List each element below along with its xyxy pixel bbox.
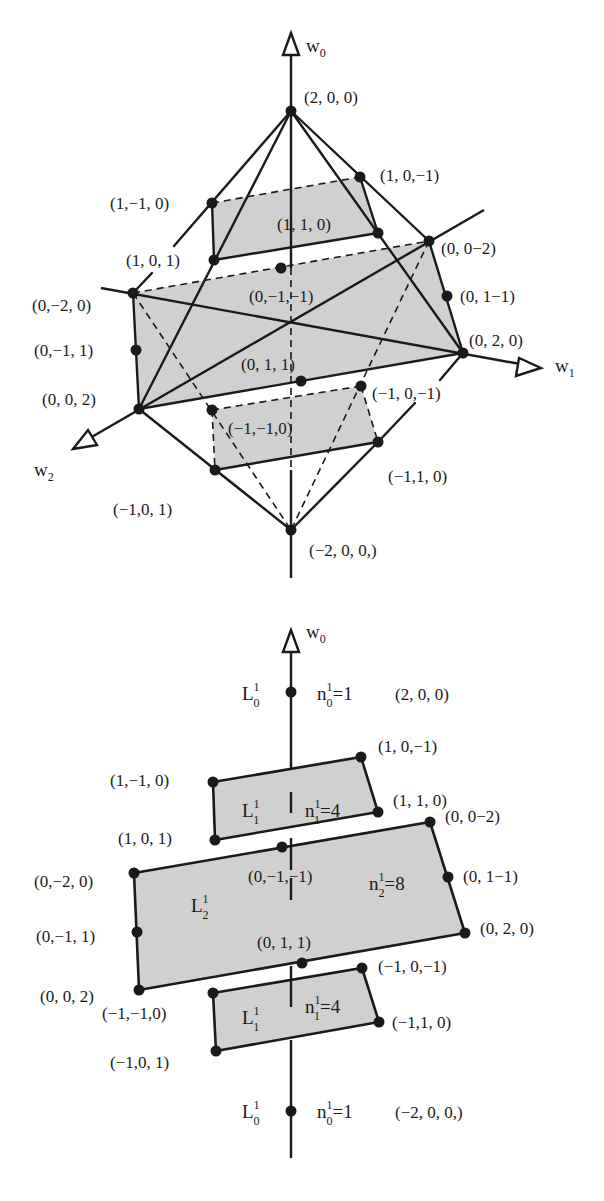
bottom-diagram: w0 L10 L11 L12 L11 L10 n10=1 n11=4 n12=8…: [34, 621, 534, 1158]
svg-text:(0,−2, 0): (0,−2, 0): [32, 296, 91, 315]
lattice-figure: w0 w1 w2 (2, 0, 0) (1,−1, 0) (1, 0,−1) (…: [0, 0, 604, 1201]
svg-text:(0, 0, 2): (0, 0, 2): [42, 390, 96, 409]
svg-text:(−1,0, 1): (−1,0, 1): [110, 1053, 169, 1072]
svg-text:(−2, 0, 0,): (−2, 0, 0,): [309, 541, 377, 560]
svg-text:(1, 1, 0): (1, 1, 0): [393, 791, 447, 810]
w1-arrow-icon: [516, 358, 541, 376]
svg-text:(0,−1, 1): (0,−1, 1): [36, 927, 95, 946]
svg-text:(0,−2, 0): (0,−2, 0): [34, 872, 93, 891]
w2-arrow-icon: [73, 430, 97, 449]
svg-text:(1, 0,−1): (1, 0,−1): [378, 737, 437, 756]
svg-text:(0, 2, 0): (0, 2, 0): [469, 331, 523, 350]
svg-text:(−1,1, 0): (−1,1, 0): [388, 467, 447, 486]
count-n0-bottom: n10=1: [317, 1098, 353, 1128]
layer-label-L0-top: L10: [242, 680, 260, 710]
svg-text:(0, 1−1): (0, 1−1): [460, 287, 515, 306]
svg-text:(2, 0, 0): (2, 0, 0): [304, 88, 358, 107]
svg-text:(0,−1,−1): (0,−1,−1): [248, 867, 313, 886]
w0-arrow-icon: [283, 33, 299, 55]
svg-text:(0, 1, 1): (0, 1, 1): [257, 933, 311, 952]
svg-text:(−1, 0,−1): (−1, 0,−1): [378, 957, 447, 976]
svg-text:(0, 1, 1): (0, 1, 1): [241, 355, 295, 374]
w1-axis-label: w1: [555, 355, 575, 380]
svg-text:(−1,−1,0): (−1,−1,0): [228, 419, 293, 438]
svg-text:(−2, 0, 0,): (−2, 0, 0,): [395, 1103, 463, 1122]
layer-label-L0-bottom: L10: [242, 1098, 260, 1128]
svg-text:(−1,−1,0): (−1,−1,0): [102, 1004, 167, 1023]
svg-text:(−1, 0,−1): (−1, 0,−1): [372, 384, 441, 403]
w0-axis-label-bottom: w0: [306, 621, 326, 646]
w2-axis-label: w2: [34, 459, 54, 484]
layer-L1-upper: [213, 757, 378, 840]
svg-text:(1, 0,−1): (1, 0,−1): [380, 166, 439, 185]
count-n0-top: n10=1: [317, 680, 353, 710]
svg-text:(−1,0, 1): (−1,0, 1): [113, 500, 172, 519]
svg-text:(1,−1, 0): (1,−1, 0): [110, 194, 169, 213]
svg-text:(1, 0, 1): (1, 0, 1): [118, 829, 172, 848]
svg-text:(1, 1, 0): (1, 1, 0): [277, 215, 331, 234]
svg-text:(0, 0, 2): (0, 0, 2): [40, 987, 94, 1006]
svg-text:(0,−1,−1): (0,−1,−1): [249, 287, 314, 306]
svg-text:(−1,1, 0): (−1,1, 0): [392, 1013, 451, 1032]
svg-text:(2, 0, 0): (2, 0, 0): [395, 685, 449, 704]
svg-text:(0, 0−2): (0, 0−2): [441, 239, 496, 258]
svg-text:(1,−1, 0): (1,−1, 0): [110, 771, 169, 790]
layer-L1-lower: [213, 968, 379, 1051]
svg-text:(1, 0, 1): (1, 0, 1): [126, 251, 180, 270]
svg-text:(0, 0−2): (0, 0−2): [445, 807, 500, 826]
svg-text:(0, 1−1): (0, 1−1): [463, 867, 518, 886]
svg-text:(0, 2, 0): (0, 2, 0): [480, 919, 534, 938]
w0-arrow-icon-bottom: [283, 630, 299, 652]
top-diagram: w0 w1 w2 (2, 0, 0) (1,−1, 0) (1, 0,−1) (…: [32, 33, 575, 578]
w0-axis-label: w0: [306, 35, 326, 60]
svg-text:(0,−1, 1): (0,−1, 1): [34, 341, 93, 360]
